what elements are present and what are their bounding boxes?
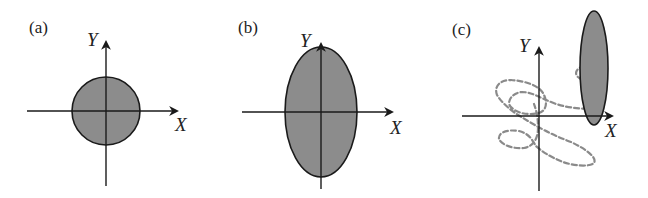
panel-a: (a) Y X <box>27 18 188 186</box>
figure: (a) Y X (b) Y X (c) Y X <box>0 0 648 198</box>
y-axis-label: Y <box>519 35 532 56</box>
x-axis-label: X <box>389 117 403 138</box>
panel-b-label: (b) <box>238 18 258 37</box>
panel-c-label: (c) <box>452 20 471 39</box>
narrow-ellipse-shape <box>580 11 608 125</box>
x-axis-label: X <box>604 120 618 141</box>
panel-b: (b) Y X <box>238 18 403 189</box>
y-axis-label: Y <box>300 30 313 51</box>
x-axis-label: X <box>174 114 188 135</box>
y-axis-label: Y <box>87 29 100 50</box>
panel-a-label: (a) <box>29 18 48 37</box>
panel-c: (c) Y X <box>452 11 618 191</box>
